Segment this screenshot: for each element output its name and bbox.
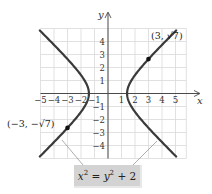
x-tick-label: 1: [119, 95, 124, 105]
x-tick-label: 4: [159, 95, 164, 105]
y-tick-label: 1: [100, 76, 105, 86]
point-label-left: (−3, −√7): [7, 118, 55, 129]
eq-sign: =: [88, 170, 103, 182]
y-tick-label: 4: [100, 37, 105, 47]
x-tick-label: −3: [61, 95, 74, 105]
callout-leader-lines: [62, 140, 157, 165]
x-tick-label: 3: [146, 95, 151, 105]
y-tick-label: −2: [92, 115, 105, 125]
x-tick-label: 2: [132, 95, 137, 105]
equation-text: x2 = y2 + 2: [78, 169, 136, 182]
y-tick-label: 2: [100, 63, 105, 73]
y-tick-label: 3: [100, 50, 105, 60]
y-tick-label: −4: [92, 141, 105, 151]
x-tick-label: 5: [173, 95, 178, 105]
point-label-right: (3, √7): [151, 30, 183, 41]
y-tick-label: −3: [92, 128, 105, 138]
point-marker: [65, 126, 70, 131]
eq-rhs-rest: + 2: [114, 170, 136, 182]
y-tick-label: −1: [92, 102, 105, 112]
x-tick-label: −4: [48, 95, 61, 105]
x-axis-label: x: [197, 95, 203, 106]
equation-callout: x2 = y2 + 2: [74, 165, 142, 188]
y-axis-label: y: [97, 9, 104, 20]
x-tick-label: −5: [34, 95, 47, 105]
point-marker: [146, 57, 151, 62]
